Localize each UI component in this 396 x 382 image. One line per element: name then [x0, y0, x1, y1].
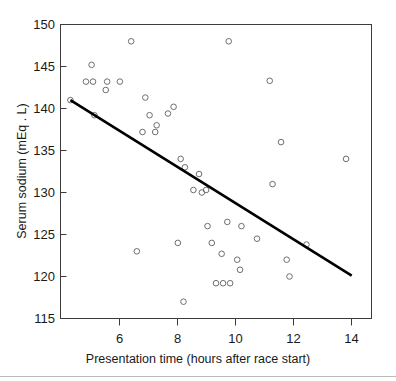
- data-point: [227, 280, 233, 286]
- data-point: [234, 257, 240, 263]
- data-point: [165, 111, 171, 117]
- data-point: [196, 171, 202, 177]
- data-point: [203, 187, 209, 193]
- data-point: [89, 62, 95, 68]
- data-point: [287, 274, 293, 280]
- data-point: [278, 139, 284, 145]
- x-tick-label: 14: [344, 331, 358, 346]
- x-tick-label: 10: [228, 331, 242, 346]
- data-point: [226, 39, 232, 45]
- data-point: [152, 129, 158, 135]
- plot-frame: [61, 25, 372, 319]
- data-point: [343, 156, 349, 162]
- y-tick-label: 140: [33, 101, 55, 116]
- x-axis-title: Presentation time (hours after race star…: [86, 352, 310, 366]
- data-point: [117, 79, 123, 85]
- regression-line: [70, 100, 351, 276]
- scatter-chart: 150 145 140 135 130 125 120 115 6 8 10 1…: [0, 0, 396, 382]
- data-point: [128, 39, 134, 45]
- data-point: [143, 95, 149, 101]
- data-point: [175, 240, 181, 246]
- y-tick-label: 145: [33, 59, 55, 74]
- regression-line-layer: [70, 100, 351, 276]
- y-tick-label: 130: [33, 185, 55, 200]
- figure-panel: 150 145 140 135 130 125 120 115 6 8 10 1…: [0, 0, 396, 382]
- data-point: [213, 280, 219, 286]
- data-point: [191, 187, 197, 193]
- data-point: [104, 79, 110, 85]
- x-tick-label: 12: [286, 331, 300, 346]
- y-tick-label: 135: [33, 143, 55, 158]
- x-axis-ticks: [120, 319, 352, 326]
- data-point: [90, 79, 96, 85]
- y-tick-label: 115: [34, 311, 55, 326]
- data-point: [171, 104, 177, 110]
- data-point: [83, 79, 89, 85]
- data-points-layer: [68, 39, 349, 305]
- y-tick-label: 125: [33, 227, 55, 242]
- data-point: [209, 240, 215, 246]
- data-point: [140, 129, 146, 135]
- y-tick-label: 120: [33, 269, 55, 284]
- data-point: [284, 257, 290, 263]
- y-tick-label: 150: [33, 17, 55, 32]
- data-point: [178, 156, 184, 162]
- data-point: [237, 267, 243, 273]
- x-tick-label: 6: [116, 331, 123, 346]
- footer-divider: [0, 376, 396, 382]
- y-tick-labels: 150 145 140 135 130 125 120 115: [33, 17, 55, 326]
- data-point: [154, 123, 160, 129]
- data-point: [181, 299, 187, 305]
- data-point: [267, 78, 273, 84]
- y-axis-ticks: [61, 25, 67, 319]
- data-point: [239, 223, 245, 229]
- data-point: [147, 112, 153, 118]
- data-point: [205, 223, 211, 229]
- data-point: [220, 280, 226, 286]
- y-axis-title: Serum sodium (mEq . L): [15, 103, 29, 238]
- data-point: [254, 236, 260, 242]
- data-point: [134, 249, 140, 255]
- data-point: [270, 181, 276, 187]
- x-tick-labels: 6 8 10 12 14: [116, 331, 359, 346]
- x-tick-label: 8: [174, 331, 181, 346]
- data-point: [225, 219, 231, 225]
- data-point: [103, 87, 109, 93]
- data-point: [219, 251, 225, 257]
